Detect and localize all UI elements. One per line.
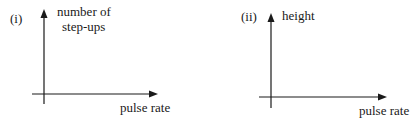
x-axis-label-i: pulse rate <box>120 101 170 115</box>
y-axis-label-i-line1: number of <box>57 5 111 19</box>
x-arrow-icon-ii <box>378 94 387 101</box>
panel-label-i: (i) <box>10 12 22 26</box>
x-arrow-icon-i <box>149 91 158 98</box>
y-arrow-icon-i <box>41 9 48 18</box>
x-axis-label-ii: pulse rate <box>359 104 409 118</box>
panel-label-ii: (ii) <box>241 10 257 24</box>
y-axis-label-i-line2: step-ups <box>62 20 105 34</box>
y-axis-label-ii: height <box>282 9 315 23</box>
diagram-panel-ii: (ii) height pulse rate <box>209 0 418 125</box>
diagram-panel-i: (i) number of step-ups pulse rate <box>0 0 209 125</box>
y-arrow-icon-ii <box>268 13 275 22</box>
